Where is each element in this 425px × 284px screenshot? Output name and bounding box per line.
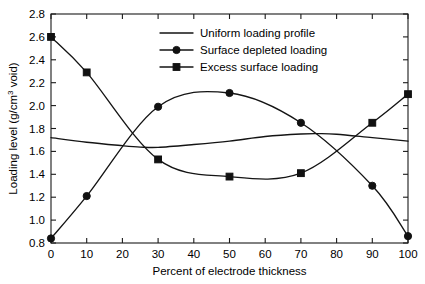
data-point-marker [226, 89, 233, 96]
x-tick-label: 20 [116, 248, 129, 260]
y-tick-label: 1.2 [29, 191, 45, 203]
legend-circle-marker [173, 46, 180, 53]
legend-label: Excess surface loading [200, 61, 318, 73]
data-point-marker [404, 233, 411, 240]
x-tick-label: 70 [295, 248, 308, 260]
x-tick-label: 50 [223, 248, 236, 260]
data-point-marker [83, 69, 90, 76]
y-tick-label: 1.8 [29, 123, 45, 135]
data-point-marker [298, 170, 305, 177]
data-point-marker [155, 103, 162, 110]
data-point-marker [369, 119, 376, 126]
y-axis-title: Loading level (g/cm3 void) [6, 62, 19, 194]
y-tick-label: 0.8 [29, 237, 45, 249]
chart-figure: 0102030405060708090100 0.81.01.21.41.61.… [0, 0, 425, 284]
data-point-marker [48, 34, 55, 41]
legend-label: Surface depleted loading [200, 44, 327, 56]
x-tick-label: 90 [366, 248, 379, 260]
x-tick-label: 60 [259, 248, 272, 260]
y-tick-label: 2.8 [29, 8, 45, 20]
y-tick-label: 1.6 [29, 145, 45, 157]
data-point-marker [369, 182, 376, 189]
x-tick-label: 40 [187, 248, 200, 260]
data-point-marker [297, 119, 304, 126]
y-tick-label: 2.0 [29, 100, 45, 112]
y-tick-label: 2.6 [29, 31, 45, 43]
data-point-marker [83, 192, 90, 199]
x-tick-label: 10 [80, 248, 93, 260]
chart-background [0, 0, 425, 284]
data-point-marker [155, 156, 162, 163]
svg-text:Loading level (g/cm3 void): Loading level (g/cm3 void) [6, 62, 19, 194]
y-tick-label: 1.4 [29, 168, 46, 180]
legend-label: Uniform loading profile [200, 27, 315, 39]
data-point-marker [405, 91, 412, 98]
x-tick-label: 80 [330, 248, 343, 260]
y-tick-label: 2.4 [29, 54, 46, 66]
y-tick-label: 1.0 [29, 214, 45, 226]
legend-square-marker [173, 64, 180, 71]
x-tick-label: 0 [48, 248, 54, 260]
line-chart: 0102030405060708090100 0.81.01.21.41.61.… [0, 0, 425, 284]
x-tick-label: 30 [152, 248, 165, 260]
data-point-marker [226, 173, 233, 180]
x-axis-title: Percent of electrode thickness [152, 265, 306, 277]
y-tick-label: 2.2 [29, 77, 45, 89]
data-point-marker [47, 235, 54, 242]
x-tick-label: 100 [398, 248, 417, 260]
